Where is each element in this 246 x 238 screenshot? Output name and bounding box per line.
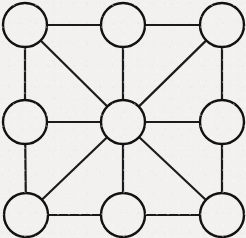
graph-node-bottom-center xyxy=(101,193,145,237)
graph-node-bottom-right xyxy=(200,193,244,237)
graph-node-bottom-left xyxy=(4,193,48,237)
graph-edge-top-right-to-center xyxy=(139,40,207,106)
graph-diagram-canvas xyxy=(0,0,246,238)
graph-node-top-center xyxy=(101,3,145,47)
graph-edge-bottom-right-to-center xyxy=(139,137,206,200)
graph-diagram-svg xyxy=(0,0,246,238)
graph-node-center xyxy=(101,100,145,144)
graph-node-top-left xyxy=(3,3,47,47)
node-layer xyxy=(3,3,244,237)
graph-node-middle-right xyxy=(200,100,244,144)
edge-layer xyxy=(25,25,222,215)
graph-edge-bottom-left-to-center xyxy=(42,137,107,200)
graph-node-top-right xyxy=(200,3,244,47)
graph-edge-top-left-to-center xyxy=(41,40,108,106)
graph-node-middle-left xyxy=(3,100,47,144)
graph-edge-middle-left-to-bottom-left xyxy=(25,144,26,193)
